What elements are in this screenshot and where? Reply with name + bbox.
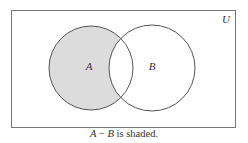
universe-label: U [222, 13, 231, 25]
caption-text: is shaded. [114, 128, 158, 139]
caption-minus: − [96, 128, 107, 139]
caption: A − B is shaded. [0, 128, 248, 139]
set-b-label: B [149, 60, 156, 72]
set-a-label: A [85, 60, 93, 72]
venn-diagram: A B U [0, 0, 248, 143]
